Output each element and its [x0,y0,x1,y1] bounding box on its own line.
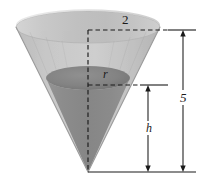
label-inner-radius: r [103,68,108,80]
label-inner-height: h [144,121,154,135]
label-top-radius: 2 [122,13,129,26]
cone-diagram-figure: 2 r h 5 [0,0,216,196]
arrowhead-up-total [180,30,185,37]
arrowhead-down-total [180,166,185,173]
arrowhead-down-inner [145,166,150,173]
label-total-height: 5 [178,90,189,105]
arrowhead-up-inner [145,85,150,92]
